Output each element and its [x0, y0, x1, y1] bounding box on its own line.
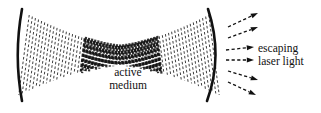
beam-wavefront — [53, 29, 60, 81]
beam-wavefront — [184, 27, 192, 84]
escaping-label-line1: escaping — [258, 42, 304, 55]
beam-wavefront — [50, 28, 57, 82]
beam-wavefront — [172, 32, 178, 79]
escaping-label-line2: laser light — [258, 55, 304, 68]
escaping-ray-arrowhead-2 — [250, 27, 258, 32]
beam-wavefront — [60, 32, 66, 79]
escaping-laser-arrows — [226, 13, 258, 95]
escaping-ray-arrowhead-6 — [248, 90, 256, 95]
beam-wavefront — [57, 30, 63, 79]
beam-wavefront — [175, 30, 181, 79]
escaping-ray-shaft-3 — [226, 48, 247, 50]
escaping-ray-arrowhead-4 — [247, 58, 254, 63]
active-medium-label-line2: medium — [95, 79, 161, 92]
escaping-ray-arrowhead-5 — [250, 76, 258, 81]
escaping-ray-arrowhead-1 — [250, 13, 258, 18]
escaping-ray-shaft-2 — [228, 30, 251, 38]
active-medium-label-line1: active — [95, 66, 161, 79]
escaping-ray-arrowhead-3 — [247, 45, 254, 50]
laser-cavity-figure: active medium escaping laser light — [0, 0, 321, 113]
beam-wavefront — [169, 33, 175, 77]
active-medium-label: active medium — [95, 66, 161, 92]
beam-wavefront — [22, 17, 32, 94]
escaping-laser-light-label: escaping laser light — [258, 42, 304, 68]
escaping-ray-shaft-1 — [228, 16, 251, 27]
beam-wavefront — [64, 33, 70, 77]
beam-wavefront — [46, 27, 54, 84]
escaping-ray-shaft-6 — [228, 82, 249, 92]
escaping-ray-shaft-5 — [228, 71, 251, 78]
left-mirror-arc — [18, 9, 22, 101]
beam-wavefront — [181, 28, 188, 82]
beam-wavefront — [178, 29, 185, 81]
